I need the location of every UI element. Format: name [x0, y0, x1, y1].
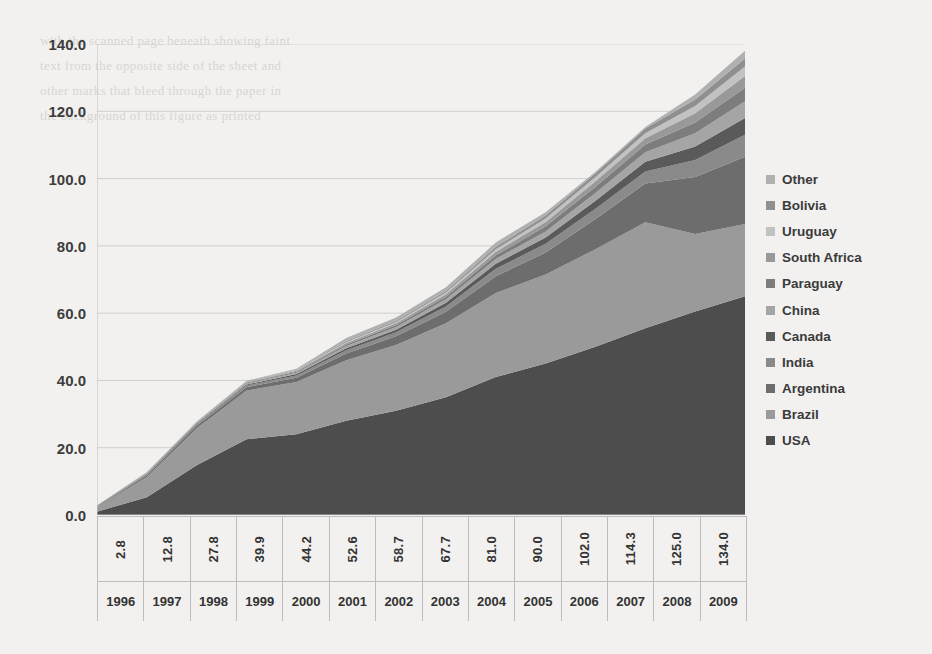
legend-swatch-icon — [766, 384, 775, 393]
legend-item-south-africa[interactable]: South Africa — [766, 245, 926, 271]
legend-swatch-icon — [766, 306, 775, 315]
data-table-year: 1996 — [98, 581, 143, 621]
data-table-column: 27.81998 — [191, 517, 237, 621]
legend-label: Uruguay — [782, 224, 837, 239]
data-table-year: 1999 — [237, 581, 282, 621]
legend-swatch-icon — [766, 175, 775, 184]
legend-item-usa[interactable]: USA — [766, 428, 926, 454]
legend-label: India — [782, 355, 814, 370]
data-table-value-cell: 114.3 — [608, 517, 653, 581]
legend-swatch-icon — [766, 410, 775, 419]
data-table-value: 134.0 — [716, 532, 731, 566]
data-table-value: 39.9 — [252, 536, 267, 563]
data-table-year: 2002 — [376, 581, 421, 621]
legend-item-paraguay[interactable]: Paraguay — [766, 271, 926, 297]
data-table-year: 2000 — [283, 581, 328, 621]
data-table-value: 2.8 — [113, 540, 128, 559]
legend-label: Brazil — [782, 407, 819, 422]
legend-item-india[interactable]: India — [766, 349, 926, 375]
y-tick-label: 40.0 — [57, 372, 86, 389]
data-table-value: 125.0 — [669, 532, 684, 566]
data-table-year: 2006 — [562, 581, 607, 621]
y-tick-label: 140.0 — [48, 36, 86, 53]
legend-swatch-icon — [766, 201, 775, 210]
legend-item-uruguay[interactable]: Uruguay — [766, 218, 926, 244]
data-table-value-cell: 134.0 — [701, 517, 746, 581]
data-table-value: 114.3 — [623, 532, 638, 565]
legend-swatch-icon — [766, 253, 775, 262]
data-table-value: 44.2 — [299, 536, 314, 563]
data-table-value: 90.0 — [530, 536, 545, 563]
data-table-year: 2008 — [654, 581, 699, 621]
legend-item-canada[interactable]: Canada — [766, 323, 926, 349]
y-tick-label: 120.0 — [48, 103, 86, 120]
data-table-value: 102.0 — [577, 532, 592, 566]
data-table-year: 2003 — [423, 581, 468, 621]
y-tick-label: 0.0 — [65, 507, 86, 524]
y-tick-label: 100.0 — [48, 170, 86, 187]
legend-item-brazil[interactable]: Brazil — [766, 402, 926, 428]
legend-label: Bolivia — [782, 198, 826, 213]
legend-swatch-icon — [766, 436, 775, 445]
data-table-column: 44.22000 — [283, 517, 329, 621]
data-table-year: 2009 — [701, 581, 746, 621]
data-table-year: 2007 — [608, 581, 653, 621]
legend-label: Other — [782, 172, 818, 187]
data-table-column: 2.81996 — [98, 517, 144, 621]
legend-label: South Africa — [782, 250, 862, 265]
data-table-value-cell: 2.8 — [98, 517, 143, 581]
y-tick-label: 20.0 — [57, 439, 86, 456]
data-table-value: 58.7 — [391, 536, 406, 563]
data-table-value-cell: 27.8 — [191, 517, 236, 581]
legend-label: China — [782, 303, 820, 318]
data-table-value: 12.8 — [160, 536, 175, 563]
data-table-column: 12.81997 — [144, 517, 190, 621]
data-table-column: 114.32007 — [608, 517, 654, 621]
data-table-value-cell: 52.6 — [330, 517, 375, 581]
data-table-value: 27.8 — [206, 536, 221, 563]
y-tick-label: 60.0 — [57, 305, 86, 322]
data-table-year: 2001 — [330, 581, 375, 621]
data-table-value-cell: 58.7 — [376, 517, 421, 581]
data-table-value: 67.7 — [438, 536, 453, 563]
data-table-value: 52.6 — [345, 536, 360, 563]
legend-label: Canada — [782, 329, 831, 344]
legend-label: Argentina — [782, 381, 845, 396]
data-table-year: 2005 — [515, 581, 560, 621]
legend-swatch-icon — [766, 227, 775, 236]
legend-label: Paraguay — [782, 276, 843, 291]
legend-swatch-icon — [766, 279, 775, 288]
data-table-value-cell: 12.8 — [144, 517, 189, 581]
data-table-column: 102.02006 — [562, 517, 608, 621]
data-table-column: 39.91999 — [237, 517, 283, 621]
legend-label: USA — [782, 433, 811, 448]
y-axis: 0.020.040.060.080.0100.0120.0140.0 — [0, 0, 86, 654]
data-table-column: 90.02005 — [515, 517, 561, 621]
data-table-column: 81.02004 — [469, 517, 515, 621]
legend-item-china[interactable]: China — [766, 297, 926, 323]
data-table-year: 1997 — [144, 581, 189, 621]
data-table-column: 134.02009 — [701, 517, 747, 621]
data-table-value-cell: 81.0 — [469, 517, 514, 581]
data-table-column: 58.72002 — [376, 517, 422, 621]
legend-swatch-icon — [766, 358, 775, 367]
data-table-value-cell: 90.0 — [515, 517, 560, 581]
legend-item-argentina[interactable]: Argentina — [766, 376, 926, 402]
legend-item-bolivia[interactable]: Bolivia — [766, 192, 926, 218]
data-table-value-cell: 67.7 — [423, 517, 468, 581]
legend-swatch-icon — [766, 332, 775, 341]
plot-svg — [97, 44, 745, 515]
data-table-year: 1998 — [191, 581, 236, 621]
data-table-year: 2004 — [469, 581, 514, 621]
legend-item-other[interactable]: Other — [766, 166, 926, 192]
data-table-value-cell: 39.9 — [237, 517, 282, 581]
data-table-column: 52.62001 — [330, 517, 376, 621]
data-table-column: 125.02008 — [654, 517, 700, 621]
stacked-area-chart: 0.020.040.060.080.0100.0120.0140.0 Other… — [0, 0, 932, 654]
data-table-value-cell: 102.0 — [562, 517, 607, 581]
y-tick-label: 80.0 — [57, 237, 86, 254]
chart-legend: OtherBoliviaUruguaySouth AfricaParaguayC… — [766, 166, 926, 454]
data-table-value-cell: 44.2 — [283, 517, 328, 581]
data-table-value-cell: 125.0 — [654, 517, 699, 581]
plot-area — [97, 44, 745, 515]
